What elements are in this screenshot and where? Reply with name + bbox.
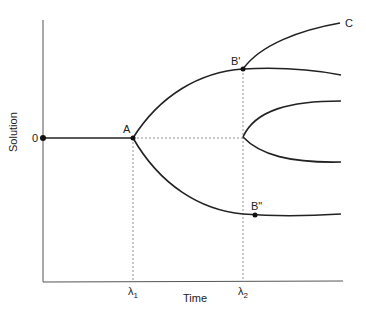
secondary-lower-branch: [243, 137, 341, 162]
point-b-double-prime-label: B": [251, 201, 262, 212]
point-c-label: C: [345, 18, 353, 29]
point-b-prime: [241, 67, 246, 72]
bifurcation-diagram: [0, 0, 366, 319]
lambda1-tick-label: λ1: [128, 286, 138, 300]
point-a: [131, 136, 136, 141]
point-b-double-prime: [253, 213, 258, 218]
point-b-prime-label: B': [231, 56, 240, 67]
secondary-upper-branch: [243, 101, 341, 137]
point-a-label: A: [123, 124, 130, 135]
x-axis-label: Time: [183, 293, 207, 304]
origin-point: [40, 135, 46, 141]
branch-c: [243, 23, 340, 69]
y-axis-label: Solution: [7, 112, 19, 152]
lower-branch: [133, 138, 341, 216]
x-axis: [43, 281, 343, 282]
lambda2-tick-label: λ2: [238, 286, 248, 300]
origin-label: 0: [32, 133, 38, 144]
